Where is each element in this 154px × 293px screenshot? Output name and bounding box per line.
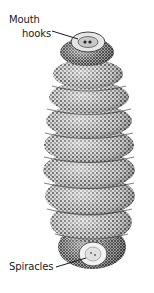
larva-diagram: Mouth hooks Spiracles — [0, 0, 154, 293]
larva-body-illustration — [0, 0, 154, 293]
mouth-hooks-structure — [71, 32, 105, 52]
mouth-label-line1: Mouth — [9, 15, 40, 25]
spiracles-structure — [79, 242, 107, 266]
mouth-label-line2: hooks — [22, 29, 51, 39]
spiracles-label: Spiracles — [9, 262, 53, 272]
mouth-hooks-leader-line — [52, 31, 78, 39]
